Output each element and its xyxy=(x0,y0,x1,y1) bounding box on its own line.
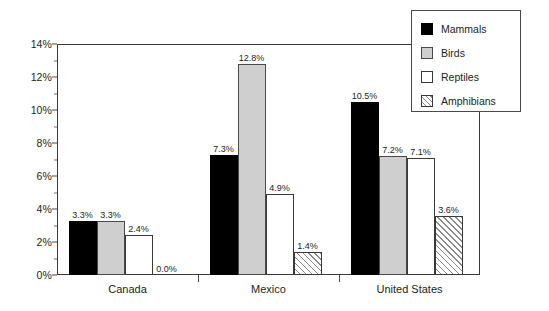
y-tick-label: 4% xyxy=(37,203,52,215)
legend-entry: Amphibians xyxy=(421,90,520,112)
bar-mexico-reptiles: 4.9% xyxy=(266,194,294,275)
bar-value-label: 3.6% xyxy=(438,205,459,215)
x-category-label: United States xyxy=(376,283,442,295)
legend-entry: Birds xyxy=(421,42,520,64)
bar-value-label: 7.1% xyxy=(410,147,431,157)
bar-value-label: 4.9% xyxy=(269,183,290,193)
y-tick-label: 0% xyxy=(37,269,52,281)
bar-value-label: 12.8% xyxy=(239,53,265,63)
y-tick-label: 12% xyxy=(31,71,52,83)
bar-canada-birds: 3.3% xyxy=(97,221,125,275)
legend-entry: Reptiles xyxy=(421,66,520,88)
bar-united-states-mammals: 10.5% xyxy=(351,102,379,275)
legend-swatch-icon xyxy=(421,23,433,35)
y-axis: 0%2%4%6%8%10%12%14% xyxy=(0,44,52,276)
x-axis-separator xyxy=(198,275,199,282)
bar-united-states-birds: 7.2% xyxy=(379,156,407,275)
legend-label: Mammals xyxy=(441,23,487,35)
bar-canada-reptiles: 2.4% xyxy=(125,235,153,275)
legend-label: Birds xyxy=(441,47,465,59)
y-tick-label: 8% xyxy=(37,137,52,149)
bar-mexico-birds: 12.8% xyxy=(238,64,266,275)
bar-value-label: 7.2% xyxy=(382,145,403,155)
legend-entry: Mammals xyxy=(421,18,520,40)
y-tick-label: 2% xyxy=(37,236,52,248)
bar-value-label: 2.4% xyxy=(128,224,149,234)
bar-value-label: 3.3% xyxy=(72,210,93,220)
bar-value-label: 0.0% xyxy=(156,264,177,274)
legend-swatch-icon xyxy=(421,95,433,107)
legend-label: Reptiles xyxy=(441,71,479,83)
legend-swatch-icon xyxy=(421,71,433,83)
bar-mexico-amphibians: 1.4% xyxy=(294,252,322,275)
chart-legend: MammalsBirdsReptilesAmphibians xyxy=(411,10,521,112)
bar-value-label: 3.3% xyxy=(100,210,121,220)
bar-value-label: 10.5% xyxy=(352,91,378,101)
bar-united-states-amphibians: 3.6% xyxy=(435,216,463,275)
y-tick-label: 14% xyxy=(31,38,52,50)
bar-value-label: 7.3% xyxy=(213,144,234,154)
bar-value-label: 1.4% xyxy=(297,241,318,251)
legend-label: Amphibians xyxy=(441,95,496,107)
legend-swatch-icon xyxy=(421,47,433,59)
bar-mexico-mammals: 7.3% xyxy=(210,155,238,275)
bar-chart: 0%2%4%6%8%10%12%14% 3.3%3.3%2.4%0.0%7.3%… xyxy=(0,0,549,311)
y-tick-label: 10% xyxy=(31,104,52,116)
bar-canada-mammals: 3.3% xyxy=(69,221,97,275)
x-axis-separator xyxy=(339,275,340,282)
bar-united-states-reptiles: 7.1% xyxy=(407,158,435,275)
y-tick-label: 6% xyxy=(37,170,52,182)
x-category-label: Canada xyxy=(108,283,147,295)
x-category-label: Mexico xyxy=(251,283,286,295)
